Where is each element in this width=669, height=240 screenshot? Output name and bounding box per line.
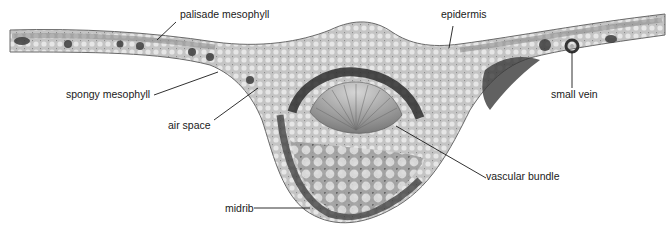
- label-vascular-bundle: vascular bundle: [486, 171, 560, 182]
- micrograph-illustration: [0, 0, 669, 240]
- label-epidermis: epidermis: [441, 9, 487, 20]
- label-palisade-mesophyll: palisade mesophyll: [180, 9, 269, 20]
- label-spongy-mesophyll: spongy mesophyll: [66, 89, 150, 100]
- label-air-space: air space: [168, 120, 211, 131]
- label-midrib: midrib: [225, 203, 254, 214]
- label-small-vein: small vein: [551, 89, 598, 100]
- leaf-cross-section-diagram: palisade mesophyll spongy mesophyll air …: [0, 0, 669, 240]
